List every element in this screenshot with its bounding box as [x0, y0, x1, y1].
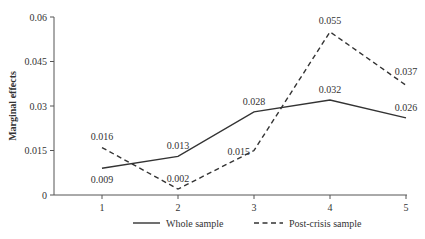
- legend-label: Whole sample: [166, 218, 224, 229]
- axes: 00.0150.030.0450.0612345: [25, 12, 409, 214]
- y-tick-label: 0.06: [30, 12, 48, 23]
- data-label: 0.002: [167, 173, 190, 184]
- y-tick-label: 0.015: [25, 145, 48, 156]
- x-tick-label: 2: [176, 202, 181, 213]
- y-axis-label: Marginal effects: [7, 71, 18, 141]
- data-label: 0.015: [228, 146, 251, 157]
- data-label: 0.016: [91, 131, 114, 142]
- legend: Whole samplePost-crisis sample: [133, 218, 362, 229]
- data-label: 0.026: [395, 102, 418, 113]
- x-tick-label: 1: [100, 202, 105, 213]
- data-label: 0.055: [319, 15, 342, 26]
- y-tick-label: 0.045: [25, 56, 48, 67]
- y-tick-label: 0.03: [30, 101, 48, 112]
- whole-sample-line: [102, 100, 406, 168]
- x-tick-label: 3: [252, 202, 257, 213]
- line-chart: 00.0150.030.0450.0612345 Marginal effect…: [0, 0, 425, 239]
- x-tick-label: 5: [404, 202, 409, 213]
- series-lines: 0.0090.0130.0280.0320.0260.0160.0020.015…: [91, 15, 418, 189]
- data-label: 0.032: [319, 84, 342, 95]
- data-label: 0.009: [91, 174, 114, 185]
- x-tick-label: 4: [328, 202, 333, 213]
- post-crisis-sample-line: [102, 32, 406, 189]
- legend-label: Post-crisis sample: [289, 218, 362, 229]
- y-tick-label: 0: [42, 190, 47, 201]
- data-label: 0.028: [243, 96, 266, 107]
- data-label: 0.037: [395, 66, 418, 77]
- data-label: 0.013: [167, 140, 190, 151]
